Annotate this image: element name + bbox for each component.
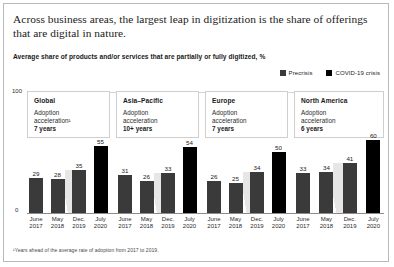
bar-dec-2019[interactable] xyxy=(161,173,175,213)
y-axis-max-label: 100 xyxy=(12,88,22,94)
bar-dec-2019[interactable] xyxy=(343,163,357,213)
bar-value-label: 55 xyxy=(90,138,112,145)
panel-global: GlobalAdoption acceleration¹ 7 years29Ju… xyxy=(27,86,110,220)
bar-value-label: 54 xyxy=(179,139,201,146)
bar-may-2018[interactable] xyxy=(319,172,333,213)
chart-frame: Across business areas, the largest leap … xyxy=(3,3,389,262)
bar-value-label: 33 xyxy=(292,165,314,172)
panel-north-america: North AmericaAdoption acceleration 6 yea… xyxy=(294,86,384,220)
x-axis-label: July 2020 xyxy=(359,216,387,231)
bar-value-label: 25 xyxy=(225,175,247,182)
chart-legend: Precrisis COVID-19 crisis xyxy=(280,70,380,76)
bar-value-label: 29 xyxy=(25,170,47,177)
bar-value-label: 34 xyxy=(315,164,337,171)
bar-value-label: 34 xyxy=(246,164,268,171)
square-swatch-icon xyxy=(326,70,332,76)
bar-july-2020[interactable] xyxy=(183,147,197,213)
bar-july-2020[interactable] xyxy=(366,140,380,213)
chart-subtitle: Average share of products and/or service… xyxy=(13,52,313,61)
legend-label: COVID-19 crisis xyxy=(335,70,380,76)
panel-bars: 31June 201726May 201833Dec. 201954July 2… xyxy=(116,86,199,214)
panel-bars: 26June 201725May 201834Dec. 201950July 2… xyxy=(205,86,288,214)
legend-label: Precrisis xyxy=(289,70,313,76)
y-axis-zero-label: 0 xyxy=(15,207,18,213)
panel-europe: EuropeAdoption acceleration 7 years26Jun… xyxy=(205,86,288,220)
bar-value-label: 28 xyxy=(47,171,69,178)
bar-june-2017[interactable] xyxy=(296,173,310,213)
bar-june-2017[interactable] xyxy=(118,175,132,213)
bar-june-2017[interactable] xyxy=(207,181,221,213)
square-swatch-icon xyxy=(280,70,286,76)
bar-may-2018[interactable] xyxy=(140,181,154,213)
bar-dec-2019[interactable] xyxy=(72,170,86,213)
bar-july-2020[interactable] xyxy=(272,152,286,213)
chart-title: Across business areas, the largest leap … xyxy=(13,12,379,40)
panel-bars: 29June 201728May 201835Dec. 201955July 2… xyxy=(27,86,110,214)
panel-bars: 33June 201734May 201841Dec. 201960July 2… xyxy=(294,86,384,214)
bar-may-2018[interactable] xyxy=(51,179,65,213)
bar-dec-2019[interactable] xyxy=(250,172,264,213)
chart-footnote: ¹Years ahead of the average rate of adop… xyxy=(13,247,159,253)
bar-value-label: 26 xyxy=(203,173,225,180)
bar-july-2020[interactable] xyxy=(94,146,108,213)
bar-june-2017[interactable] xyxy=(29,178,43,213)
bar-value-label: 33 xyxy=(157,165,179,172)
bar-value-label: 26 xyxy=(136,173,158,180)
legend-item-covid-crisis: COVID-19 crisis xyxy=(326,70,380,76)
bar-value-label: 35 xyxy=(68,162,90,169)
bar-value-label: 31 xyxy=(114,167,136,174)
bar-value-label: 50 xyxy=(268,144,290,151)
bar-value-label: 41 xyxy=(339,155,361,162)
bar-value-label: 60 xyxy=(362,132,384,139)
bar-may-2018[interactable] xyxy=(229,183,243,214)
panel-asia-pacific: Asia–PacificAdoption acceleration 10+ ye… xyxy=(116,86,199,220)
legend-item-precrisis: Precrisis xyxy=(280,70,313,76)
chart-plot-area: 100 0 GlobalAdoption acceleration¹ 7 yea… xyxy=(12,86,384,220)
